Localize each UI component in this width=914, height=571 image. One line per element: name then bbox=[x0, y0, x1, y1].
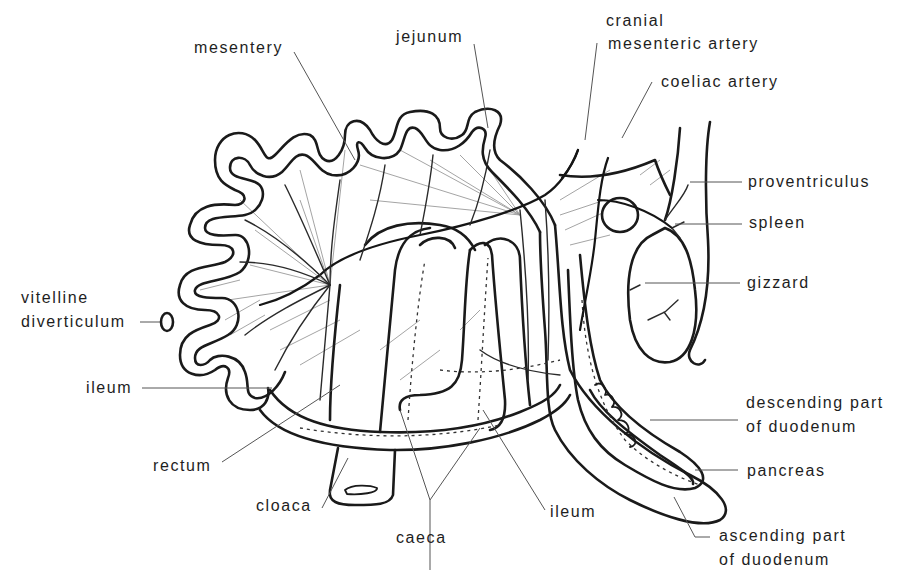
label-pancreas: pancreas bbox=[747, 461, 826, 481]
label-coeliac-artery: coeliac artery bbox=[661, 72, 779, 92]
label-ileum-left: ileum bbox=[86, 378, 132, 398]
cloaca-group bbox=[330, 448, 395, 505]
label-gizzard: gizzard bbox=[747, 273, 810, 293]
label-vitelline-diverticulum-line1: vitelline bbox=[21, 288, 89, 308]
gi-tract-diagram: mesentery jejunum cranial mesenteric art… bbox=[0, 0, 914, 571]
label-ascending-duodenum-line2: of duodenum bbox=[719, 550, 830, 570]
label-cranial-mesenteric-artery-line2: mesenteric artery bbox=[608, 34, 759, 54]
label-proventriculus: proventriculus bbox=[748, 172, 870, 192]
label-jejunum: jejunum bbox=[396, 27, 463, 47]
label-descending-duodenum-line2: of duodenum bbox=[746, 417, 857, 437]
label-vitelline-diverticulum-line2: diverticulum bbox=[21, 312, 126, 332]
label-cloaca: cloaca bbox=[256, 496, 312, 516]
label-rectum: rectum bbox=[153, 456, 212, 476]
vitelline-diverticulum-shape bbox=[161, 313, 173, 331]
label-mesentery: mesentery bbox=[194, 38, 283, 58]
label-caeca: caeca bbox=[396, 528, 447, 548]
blood-vessels bbox=[240, 150, 688, 400]
label-cranial-mesenteric-artery-line1: cranial bbox=[606, 11, 664, 31]
label-ileum-bottom: ileum bbox=[550, 502, 596, 522]
small-intestine-coils bbox=[161, 109, 555, 410]
label-descending-duodenum-line1: descending part bbox=[746, 393, 884, 413]
label-spleen: spleen bbox=[749, 213, 806, 233]
stomach-group bbox=[560, 122, 710, 365]
label-ascending-duodenum-line1: ascending part bbox=[719, 526, 846, 546]
